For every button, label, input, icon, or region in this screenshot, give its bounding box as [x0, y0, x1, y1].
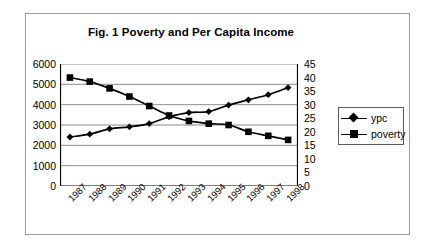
data-point-poverty [265, 133, 272, 140]
axis-tick-label: 3000 [33, 119, 56, 131]
data-point-ypc [225, 102, 232, 109]
axis-tick-label: 30 [304, 99, 316, 111]
chart-title: Fig. 1 Poverty and Per Capita Income [26, 26, 356, 38]
data-point-ypc [106, 125, 113, 132]
data-point-poverty [166, 112, 173, 119]
axis-tick-label: 25 [304, 112, 316, 124]
data-point-poverty [146, 103, 153, 110]
axis-tick-label: 4000 [33, 99, 56, 111]
axis-tick-label: 5 [304, 166, 310, 178]
axis-tick-label: 0 [50, 180, 56, 192]
data-point-ypc [86, 131, 93, 138]
data-point-ypc [186, 109, 193, 116]
data-point-ypc [146, 120, 153, 127]
axis-tick-label: 10 [304, 153, 316, 165]
data-point-ypc [265, 91, 272, 98]
legend-item-poverty: poverty [341, 126, 405, 142]
series-line-ypc [70, 88, 288, 137]
data-point-ypc [245, 96, 252, 103]
data-point-poverty [245, 128, 252, 135]
axis-tick-label: 20 [304, 126, 316, 138]
data-point-poverty [67, 74, 74, 81]
data-point-poverty [225, 122, 232, 129]
data-point-poverty [106, 85, 113, 92]
chart-legend: ypc poverty [338, 107, 404, 145]
data-point-ypc [126, 123, 133, 130]
plot-area [60, 64, 298, 186]
data-point-poverty [285, 137, 292, 144]
axis-tick-label: 2000 [33, 139, 56, 151]
data-point-ypc [67, 134, 74, 141]
legend-item-ypc: ypc [341, 110, 387, 126]
data-point-ypc [285, 84, 292, 91]
legend-label: ypc [371, 112, 387, 124]
chart-plot-svg [60, 64, 298, 186]
legend-label: poverty [371, 128, 405, 140]
data-point-ypc [205, 108, 212, 115]
data-point-poverty [205, 120, 212, 127]
axis-tick-label: 45 [304, 58, 316, 70]
axis-tick-label: 1000 [33, 160, 56, 172]
data-point-poverty [86, 78, 93, 85]
x-axis-tick-labels: 1987198819891990199119921993199419951996… [60, 190, 310, 236]
axis-tick-label: 5000 [33, 78, 56, 90]
axis-tick-label: 6000 [33, 58, 56, 70]
data-point-poverty [186, 118, 193, 125]
axis-tick-label: 40 [304, 72, 316, 84]
legend-marker-square-icon [341, 128, 367, 140]
data-point-poverty [126, 93, 133, 100]
axis-tick-label: 35 [304, 85, 316, 97]
legend-marker-diamond-icon [341, 112, 367, 124]
axis-tick-label: 15 [304, 139, 316, 151]
